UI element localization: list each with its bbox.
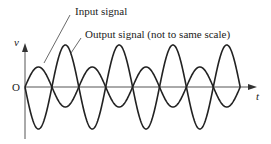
v-axis-arrow-icon: [22, 43, 28, 52]
t-axis-label: t: [256, 90, 260, 102]
output-label-leader: [71, 38, 81, 53]
origin-label: O: [12, 81, 20, 93]
amplifier-waveform-diagram: Input signal Output signal (not to same …: [0, 0, 271, 144]
axes: [22, 43, 257, 139]
input-label-leader: [44, 15, 70, 63]
output-signal-label: Output signal (not to same scale): [85, 28, 230, 41]
v-axis-label: v: [14, 36, 19, 48]
input-signal-label: Input signal: [75, 5, 127, 17]
